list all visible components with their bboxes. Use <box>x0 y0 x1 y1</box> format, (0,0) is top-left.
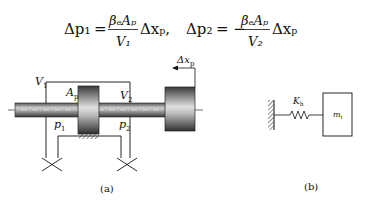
label-V2: V2 <box>120 89 132 104</box>
load-block <box>165 87 195 131</box>
lower-pipe <box>58 136 121 158</box>
valve-left-icon <box>42 158 62 171</box>
caption-a: (a) <box>100 183 114 194</box>
valve-right-icon <box>117 158 137 171</box>
caption-b: (b) <box>304 181 318 192</box>
figure-a-hydraulic-cylinder: V1 Ap V2 p1 p2 Δxp (a) <box>8 54 203 194</box>
label-Ap: Ap <box>65 86 79 101</box>
ground-hatch <box>79 134 99 139</box>
wall-hatch <box>268 100 274 130</box>
label-Kh: Kh <box>292 96 304 107</box>
figures: V1 Ap V2 p1 p2 Δxp (a) Kh mt (b) <box>0 0 365 204</box>
figure-b-spring-mass: Kh mt (b) <box>268 93 352 192</box>
label-delta-xp: Δxp <box>176 54 195 68</box>
piston <box>78 86 99 134</box>
displacement-arrow <box>175 68 195 87</box>
label-p1: p1 <box>54 118 66 133</box>
label-V1: V1 <box>35 75 47 90</box>
spring-icon <box>274 111 323 119</box>
label-p2: p2 <box>119 118 131 133</box>
arrowhead-icon <box>172 66 178 71</box>
